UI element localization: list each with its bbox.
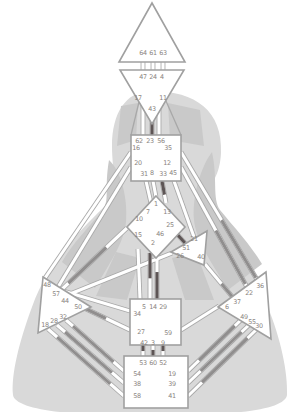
gate-49-label: 49: [240, 313, 248, 321]
bodygraph: 6461634724417431162235616352012318334517…: [0, 0, 299, 412]
gate-47-label: 47: [139, 73, 147, 81]
gate-26-label: 26: [176, 252, 184, 260]
gate-43-label: 43: [148, 105, 156, 113]
gate-8-label: 8: [150, 169, 154, 177]
gate-20-label: 20: [134, 159, 142, 167]
gate-23-label: 23: [146, 137, 154, 145]
gate-3-label: 3: [151, 339, 155, 347]
gate-17-label: 17: [134, 94, 142, 102]
gate-60-label: 60: [149, 359, 157, 367]
gate-37-label: 37: [233, 298, 241, 306]
gate-16-label: 16: [132, 144, 140, 152]
gate-63-label: 63: [159, 49, 167, 57]
gate-2-label: 2: [151, 239, 155, 247]
gate-5-label: 5: [142, 303, 146, 311]
gate-45-label: 45: [169, 169, 177, 177]
gate-51-label: 51: [182, 244, 190, 252]
gate-14-label: 14: [149, 303, 157, 311]
gate-7-label: 7: [146, 208, 150, 216]
gate-11-label: 11: [159, 94, 167, 102]
gate-52-label: 52: [159, 359, 167, 367]
gate-25-label: 25: [166, 221, 174, 229]
gate-6-label: 6: [225, 303, 229, 311]
gate-39-label: 39: [168, 380, 176, 388]
gate-15-label: 15: [134, 231, 142, 239]
gate-41-label: 41: [168, 392, 176, 400]
gate-24-label: 24: [149, 73, 157, 81]
gate-64-label: 64: [139, 49, 147, 57]
gate-10-label: 10: [135, 215, 143, 223]
gate-4-label: 4: [160, 73, 164, 81]
bodygraph-svg: 6461634724417431162235616352012318334517…: [0, 0, 299, 412]
gate-13-label: 13: [163, 208, 171, 216]
gate-40-label: 40: [197, 253, 205, 261]
gate-50-label: 50: [74, 303, 82, 311]
gate-54-label: 54: [133, 370, 141, 378]
gate-57-label: 57: [52, 290, 60, 298]
gate-9-label: 9: [161, 339, 165, 347]
channel-15-5: [138, 249, 140, 299]
gate-46-label: 46: [156, 230, 164, 238]
gate-27-label: 27: [137, 328, 145, 336]
gate-21-label: 21: [190, 235, 198, 243]
gate-35-label: 35: [164, 144, 172, 152]
gate-31-label: 31: [140, 170, 148, 178]
gate-34-label: 34: [133, 310, 141, 318]
gate-19-label: 19: [168, 370, 176, 378]
gate-12-label: 12: [163, 159, 171, 167]
gate-59-label: 59: [164, 329, 172, 337]
gate-1-label: 1: [154, 200, 158, 208]
gate-44-label: 44: [61, 297, 69, 305]
gate-48-label: 48: [43, 281, 51, 289]
gate-18-label: 18: [41, 321, 49, 329]
gate-58-label: 58: [133, 392, 141, 400]
gate-29-label: 29: [159, 303, 167, 311]
gate-53-label: 53: [139, 359, 147, 367]
gate-61-label: 61: [149, 49, 157, 57]
gate-38-label: 38: [133, 380, 141, 388]
gate-30-label: 30: [255, 322, 263, 330]
gate-22-label: 22: [245, 289, 253, 297]
gate-28-label: 28: [50, 317, 58, 325]
gate-42-label: 42: [140, 339, 148, 347]
gate-36-label: 36: [256, 282, 264, 290]
gate-32-label: 32: [59, 313, 67, 321]
gate-33-label: 33: [159, 170, 167, 178]
